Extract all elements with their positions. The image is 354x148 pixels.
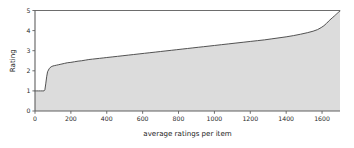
y-tick-label: 5 xyxy=(26,7,30,14)
x-axis-title: average ratings per item xyxy=(143,129,231,138)
y-tick-label: 1 xyxy=(26,87,30,94)
rating-vs-average-ratings-area-chart: 012345 02004006008001000120014001600 Rat… xyxy=(0,0,354,148)
x-tick-label: 0 xyxy=(33,115,37,122)
y-axis-title: Rating xyxy=(8,49,17,72)
y-tick-label: 4 xyxy=(26,27,30,34)
x-tick-label: 800 xyxy=(173,115,185,122)
chart-figure: 012345 02004006008001000120014001600 Rat… xyxy=(0,0,354,148)
x-tick-label: 400 xyxy=(101,115,113,122)
y-tick-label: 0 xyxy=(26,107,30,114)
x-tick-label: 1400 xyxy=(278,115,294,122)
x-tick-label: 1600 xyxy=(314,115,330,122)
y-tick-label: 3 xyxy=(26,47,30,54)
y-tick-label: 2 xyxy=(26,67,30,74)
x-tick-label: 1200 xyxy=(242,115,258,122)
x-tick-label: 600 xyxy=(137,115,149,122)
x-tick-label: 200 xyxy=(65,115,77,122)
x-tick-label: 1000 xyxy=(207,115,223,122)
